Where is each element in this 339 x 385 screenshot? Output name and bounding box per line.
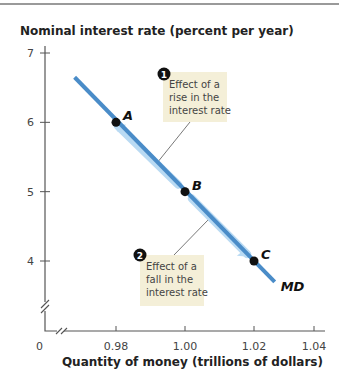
annotation-fall: 2 Effect of a fall in the interest rate bbox=[134, 220, 209, 306]
y-tick-label: 6 bbox=[27, 116, 34, 129]
point-a bbox=[112, 118, 121, 127]
point-label-c: C bbox=[261, 247, 271, 262]
annotation-rise-line-3: interest rate bbox=[169, 105, 231, 116]
origin-label: 0 bbox=[36, 340, 43, 353]
x-tick-label: 1.00 bbox=[173, 340, 198, 353]
annotation-fall-leader bbox=[174, 220, 208, 255]
annotation-rise-line-1: Effect of a bbox=[169, 79, 220, 90]
annotation-fall-line-3: interest rate bbox=[146, 287, 208, 298]
x-tick-label: 1.02 bbox=[242, 340, 267, 353]
annotation-fall-number: 2 bbox=[137, 251, 143, 261]
annotation-rise-leader bbox=[157, 122, 190, 163]
x-tick-label: 0.98 bbox=[104, 340, 129, 353]
point-label-b: B bbox=[192, 178, 202, 193]
point-c bbox=[250, 257, 259, 266]
y-axis-label: Nominal interest rate (percent per year) bbox=[20, 24, 294, 38]
annotation-rise-number: 1 bbox=[161, 70, 167, 80]
x-tick-label: 1.04 bbox=[302, 340, 327, 353]
x-axis-label: Quantity of money (trillions of dollars) bbox=[62, 355, 323, 369]
annotation-rise-line-2: rise in the bbox=[169, 92, 219, 103]
point-label-a: A bbox=[122, 108, 133, 123]
y-tick-label: 7 bbox=[27, 47, 34, 60]
md-curve-label: MD bbox=[281, 279, 305, 294]
point-b bbox=[181, 187, 190, 196]
annotation-rise: 1 Effect of a rise in the interest rate bbox=[157, 68, 231, 164]
y-tick-label: 5 bbox=[27, 186, 34, 199]
y-axis-lower bbox=[45, 311, 57, 331]
y-tick-label: 4 bbox=[27, 255, 34, 268]
money-demand-chart: Nominal interest rate (percent per year)… bbox=[0, 0, 339, 385]
annotation-fall-line-2: fall in the bbox=[146, 274, 193, 285]
annotation-fall-line-1: Effect of a bbox=[146, 261, 197, 272]
